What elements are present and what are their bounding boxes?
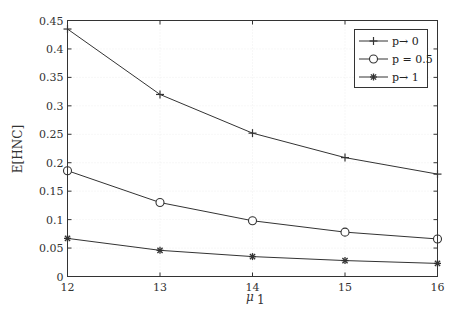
x-axis-label-subscript: 1 xyxy=(257,293,265,307)
y-tick-label: 0.3 xyxy=(46,100,64,113)
y-tick-label: 0.1 xyxy=(46,214,64,227)
legend-label: p→ 1 xyxy=(392,71,419,84)
x-tick-label: 15 xyxy=(338,281,352,294)
star-marker-icon xyxy=(157,247,164,254)
x-tick-label: 13 xyxy=(153,281,167,294)
y-tick-label: 0.25 xyxy=(39,128,64,141)
y-axis-tick-labels: 00.050.10.150.20.250.30.350.40.45 xyxy=(39,15,64,284)
y-tick-label: 0.4 xyxy=(46,43,64,56)
x-tick-label: 16 xyxy=(431,281,445,294)
y-axis-label: E[HNC] xyxy=(11,125,25,173)
circle-marker-icon xyxy=(156,199,164,207)
series-circle xyxy=(64,167,442,243)
y-tick-label: 0.15 xyxy=(39,185,64,198)
plus-marker-icon xyxy=(341,154,349,162)
circle-marker-icon xyxy=(249,217,257,225)
line-chart: 00.050.10.150.20.250.30.350.40.45 121314… xyxy=(0,0,463,323)
star-marker-icon xyxy=(370,74,377,81)
x-tick-label: 12 xyxy=(61,281,75,294)
star-marker-icon xyxy=(249,253,256,260)
y-tick-label: 0.2 xyxy=(46,157,64,170)
plus-marker-icon xyxy=(249,129,257,137)
legend-label: p = 0.5 xyxy=(392,53,433,66)
legend: p→ 0p = 0.5p→ 1 xyxy=(355,30,433,88)
circle-marker-icon xyxy=(341,228,349,236)
legend-label: p→ 0 xyxy=(392,35,419,48)
plus-marker-icon xyxy=(156,90,164,98)
circle-marker-icon xyxy=(370,55,378,63)
y-tick-label: 0.45 xyxy=(39,15,64,28)
y-tick-label: 0.05 xyxy=(39,242,64,255)
x-axis-label-main: μ xyxy=(246,290,254,304)
y-tick-label: 0.35 xyxy=(39,71,64,84)
star-marker-icon xyxy=(342,257,349,264)
